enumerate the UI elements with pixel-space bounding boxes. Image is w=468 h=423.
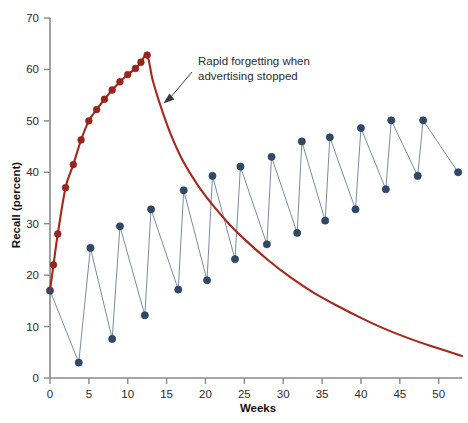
y-tick-label: 0 — [33, 372, 39, 384]
x-tick-label: 30 — [277, 388, 290, 400]
continuous-series-line — [50, 54, 462, 356]
pulsed-data-point — [322, 217, 329, 224]
continuous-data-point — [62, 184, 69, 191]
x-tick-label: 10 — [121, 388, 134, 400]
annotations: Rapid forgetting whenadvertising stopped — [163, 55, 310, 103]
pulsed-data-point — [141, 312, 148, 319]
pulsed-data-point — [263, 241, 270, 248]
annotation-line-1: Rapid forgetting when — [198, 55, 310, 67]
annotation-arrow-line — [171, 72, 192, 96]
pulsed-data-point — [357, 124, 364, 131]
pulsed-data-point — [294, 229, 301, 236]
pulsed-data-point — [388, 117, 395, 124]
x-tick-label: 5 — [86, 388, 92, 400]
chart-svg: 01020304050607005101520253035404550 Rapi… — [0, 0, 468, 423]
x-tick-label: 20 — [199, 388, 212, 400]
pulsed-data-point — [268, 153, 275, 160]
pulsed-data-point — [420, 117, 427, 124]
pulsed-data-point — [116, 223, 123, 230]
pulsed-data-point — [75, 359, 82, 366]
x-tick-label: 25 — [238, 388, 251, 400]
x-tick-label: 45 — [393, 388, 406, 400]
continuous-data-point — [138, 59, 145, 66]
x-tick-label: 40 — [355, 388, 368, 400]
continuous-data-point — [144, 52, 151, 59]
chart-container: 01020304050607005101520253035404550 Rapi… — [0, 0, 468, 423]
continuous-data-point — [124, 71, 131, 78]
y-tick-label: 20 — [26, 269, 39, 281]
continuous-data-point — [54, 231, 61, 238]
pulsed-data-point — [203, 277, 210, 284]
data-series — [46, 52, 462, 367]
x-tick-label: 15 — [160, 388, 173, 400]
continuous-data-point — [101, 96, 108, 103]
y-tick-label: 50 — [26, 115, 39, 127]
y-tick-label: 60 — [26, 63, 39, 75]
continuous-data-point — [132, 65, 139, 72]
pulsed-data-point — [326, 134, 333, 141]
pulsed-data-point — [237, 163, 244, 170]
pulsed-data-point — [180, 187, 187, 194]
y-tick-label: 30 — [26, 218, 39, 230]
pulsed-series-line — [50, 120, 458, 362]
y-axis-title: Recall (percent) — [10, 162, 22, 248]
continuous-data-point — [117, 78, 124, 85]
annotation-line-2: advertising stopped — [198, 70, 298, 82]
pulsed-data-point — [87, 244, 94, 251]
pulsed-data-point — [298, 138, 305, 145]
y-tick-label: 70 — [26, 12, 39, 24]
pulsed-data-point — [231, 256, 238, 263]
pulsed-data-point — [209, 172, 216, 179]
continuous-data-point — [85, 117, 92, 124]
continuous-data-point — [93, 106, 100, 113]
pulsed-data-point — [175, 286, 182, 293]
continuous-data-point — [50, 261, 57, 268]
pulsed-data-point — [352, 206, 359, 213]
y-tick-label: 10 — [26, 321, 39, 333]
pulsed-data-point — [109, 335, 116, 342]
x-axis-title: Weeks — [240, 402, 276, 414]
pulsed-data-point — [455, 169, 462, 176]
continuous-data-point — [78, 136, 85, 143]
continuous-data-point — [70, 161, 77, 168]
x-tick-label: 50 — [432, 388, 445, 400]
x-tick-label: 35 — [316, 388, 329, 400]
continuous-data-point — [109, 87, 116, 94]
pulsed-data-point — [382, 186, 389, 193]
pulsed-data-point — [414, 172, 421, 179]
pulsed-data-point — [147, 206, 154, 213]
x-tick-label: 0 — [47, 388, 53, 400]
y-tick-label: 40 — [26, 166, 39, 178]
